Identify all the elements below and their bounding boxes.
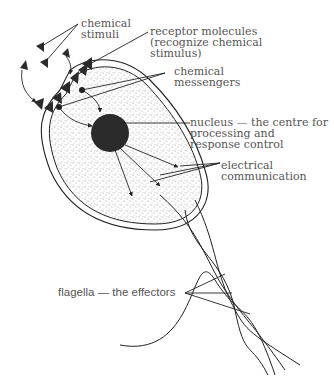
- label-chemical-messengers: chemical messengers: [174, 66, 240, 88]
- label-receptor-molecules: receptor molecules (recognize chemical s…: [150, 26, 262, 59]
- label-flagella: flagella — the effectors: [58, 287, 175, 298]
- label-chemical-stimuli: chemical stimuli: [81, 18, 131, 40]
- chemical-stimuli: [20, 42, 70, 70]
- nucleus: [91, 114, 129, 152]
- label-nucleus: nucleus — the centre for processing and …: [190, 117, 328, 150]
- label-electrical-communication: electrical communication: [221, 160, 307, 182]
